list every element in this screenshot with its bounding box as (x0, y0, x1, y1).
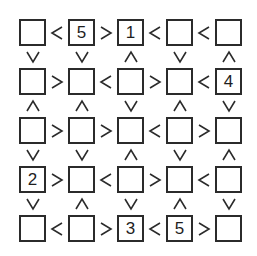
grid-cell-r5-c3[interactable]: 3 (117, 215, 144, 242)
grid-cell-r2-c5[interactable]: 4 (215, 68, 242, 95)
grid-cell-r5-c4[interactable]: 5 (166, 215, 193, 242)
down-chevron-sign-icon (119, 94, 143, 118)
grid-cell-r3-c5[interactable] (215, 117, 242, 144)
down-chevron-sign-icon (70, 45, 94, 69)
grid-cell-r3-c2[interactable] (68, 117, 95, 144)
grid-cell-r4-c3[interactable] (117, 166, 144, 193)
grid-cell-r4-c2[interactable] (68, 166, 95, 193)
futoshiki-board: 514235 (0, 0, 257, 256)
less-than-sign-icon (143, 217, 167, 241)
grid-cell-r5-c5[interactable] (215, 215, 242, 242)
grid-cell-r5-c1[interactable] (19, 215, 46, 242)
down-chevron-sign-icon (168, 45, 192, 69)
up-chevron-sign-icon (70, 192, 94, 216)
up-chevron-sign-icon (119, 45, 143, 69)
greater-than-sign-icon (45, 70, 69, 94)
grid-cell-r5-c2[interactable] (68, 215, 95, 242)
up-chevron-sign-icon (119, 143, 143, 167)
less-than-sign-icon (143, 21, 167, 45)
up-chevron-sign-icon (21, 94, 45, 118)
grid-cell-r2-c1[interactable] (19, 68, 46, 95)
up-chevron-sign-icon (217, 45, 241, 69)
greater-than-sign-icon (94, 21, 118, 45)
greater-than-sign-icon (143, 168, 167, 192)
down-chevron-sign-icon (168, 143, 192, 167)
down-chevron-sign-icon (119, 192, 143, 216)
down-chevron-sign-icon (217, 192, 241, 216)
less-than-sign-icon (143, 119, 167, 143)
greater-than-sign-icon (94, 119, 118, 143)
up-chevron-sign-icon (70, 94, 94, 118)
grid-cell-r2-c2[interactable] (68, 68, 95, 95)
down-chevron-sign-icon (21, 143, 45, 167)
grid-cell-r4-c5[interactable] (215, 166, 242, 193)
less-than-sign-icon (192, 70, 216, 94)
grid-cell-r1-c2[interactable]: 5 (68, 19, 95, 46)
grid-cell-r3-c4[interactable] (166, 117, 193, 144)
down-chevron-sign-icon (217, 94, 241, 118)
greater-than-sign-icon (192, 119, 216, 143)
greater-than-sign-icon (45, 119, 69, 143)
grid-cell-r1-c3[interactable]: 1 (117, 19, 144, 46)
less-than-sign-icon (192, 21, 216, 45)
grid-cell-r1-c1[interactable] (19, 19, 46, 46)
greater-than-sign-icon (45, 168, 69, 192)
less-than-sign-icon (192, 168, 216, 192)
grid-cell-r3-c3[interactable] (117, 117, 144, 144)
down-chevron-sign-icon (70, 143, 94, 167)
less-than-sign-icon (94, 70, 118, 94)
greater-than-sign-icon (94, 217, 118, 241)
grid-cell-r4-c1[interactable]: 2 (19, 166, 46, 193)
up-chevron-sign-icon (168, 94, 192, 118)
grid-cell-r1-c5[interactable] (215, 19, 242, 46)
up-chevron-sign-icon (217, 143, 241, 167)
grid-cell-r4-c4[interactable] (166, 166, 193, 193)
less-than-sign-icon (45, 21, 69, 45)
greater-than-sign-icon (192, 217, 216, 241)
grid-cell-r2-c3[interactable] (117, 68, 144, 95)
grid-cell-r3-c1[interactable] (19, 117, 46, 144)
down-chevron-sign-icon (21, 192, 45, 216)
grid-cell-r2-c4[interactable] (166, 68, 193, 95)
grid-cell-r1-c4[interactable] (166, 19, 193, 46)
up-chevron-sign-icon (168, 192, 192, 216)
less-than-sign-icon (45, 217, 69, 241)
down-chevron-sign-icon (21, 45, 45, 69)
less-than-sign-icon (94, 168, 118, 192)
greater-than-sign-icon (143, 70, 167, 94)
